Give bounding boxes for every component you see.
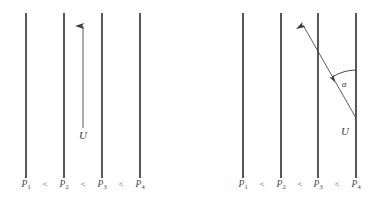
left-panel-drawing	[0, 0, 192, 205]
isobar-label-p4: P4	[135, 179, 144, 189]
angle-arc	[332, 70, 356, 77]
normal-incidence-panel: U P1 < P2 < P3 < P4	[0, 0, 192, 205]
oblique-incidence-panel: α U P1 < P2 < P3 < P4	[192, 0, 384, 205]
right-isobar-label-row: P1 < P2 < P3 < P4	[192, 179, 384, 195]
velocity-vector-arrow	[303, 25, 356, 118]
angle-label-alpha: α	[342, 80, 347, 89]
isobar-label-p1: P1	[238, 179, 247, 189]
isobar-label-p2: P2	[59, 179, 68, 189]
isobar-label-p3: P3	[313, 179, 322, 189]
isobar-label-p4: P4	[351, 179, 360, 189]
inequality-symbol-3: <	[334, 179, 339, 189]
velocity-label: U	[341, 126, 349, 137]
inequality-symbol-1: <	[259, 179, 264, 189]
velocity-label: U	[79, 130, 87, 141]
isobar-label-p1: P1	[21, 179, 30, 189]
isobar-label-p2: P2	[276, 179, 285, 189]
pressure-gradient-figure: U P1 < P2 < P3 < P4	[0, 0, 384, 205]
isobar-label-p3: P3	[97, 179, 106, 189]
inequality-symbol-1: <	[42, 179, 47, 189]
inequality-symbol-2: <	[297, 179, 302, 189]
inequality-symbol-2: <	[80, 179, 85, 189]
left-isobar-label-row: P1 < P2 < P3 < P4	[0, 179, 192, 195]
inequality-symbol-3: <	[118, 179, 123, 189]
right-panel-drawing	[192, 0, 384, 205]
